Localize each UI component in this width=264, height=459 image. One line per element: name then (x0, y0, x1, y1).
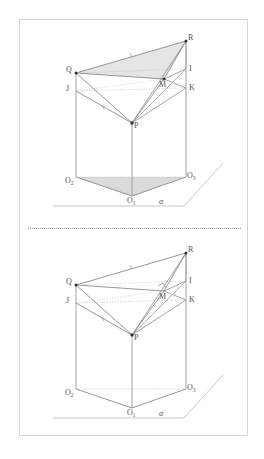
label-P-bottom: P (134, 334, 138, 342)
section-divider (28, 228, 241, 229)
edge-J-P-bottom (76, 303, 132, 335)
edge-P-K-bottom (132, 300, 186, 335)
label-O3-top: O3 (187, 172, 196, 180)
figure-frame: R I K M Q J P O2 O3 O1 α (19, 19, 248, 436)
edge-Q-R-bottom (76, 253, 186, 285)
tick-mark-QR (130, 53, 132, 57)
label-O3-bottom-letter: O (187, 383, 193, 392)
label-O1-bottom-sub: 1 (133, 412, 136, 418)
label-K-top: K (189, 84, 195, 92)
label-alpha-top: α (159, 198, 163, 206)
label-K-bottom: K (189, 296, 195, 304)
label-J-bottom: J (66, 297, 69, 305)
label-O1-bottom-letter: O (127, 408, 133, 417)
label-O2-bottom-letter: O (65, 388, 71, 397)
shaded-base-face (76, 177, 186, 196)
label-J-top: J (66, 85, 69, 93)
edge-Q-M-bottom (76, 285, 164, 291)
label-O3-bottom: O3 (187, 384, 196, 392)
edge-J-P (76, 91, 132, 123)
label-R-bottom: R (188, 246, 193, 254)
plane-alpha-outline-bottom (53, 375, 223, 418)
edge-P-K (132, 88, 186, 123)
label-O1-bottom: O1 (127, 409, 136, 417)
shaded-top-face (76, 41, 186, 79)
label-O2-bottom: O2 (65, 389, 74, 397)
label-M-bottom: M (159, 293, 166, 301)
edge-O2-O1-bottom (76, 389, 132, 408)
label-I-bottom: I (189, 277, 192, 285)
edge-Q-P (76, 73, 132, 123)
page-root: R I K M Q J P O2 O3 O1 α (0, 0, 264, 459)
label-O2-bottom-sub: 2 (71, 392, 74, 398)
label-R-top: R (188, 34, 193, 42)
vertex-Q (75, 72, 78, 75)
label-O3-bottom-sub: 3 (193, 387, 196, 393)
tick-mark-QR-bottom (130, 265, 132, 269)
vertex-Q-bottom (75, 284, 78, 287)
label-O2-top: O2 (65, 177, 74, 185)
label-alpha-bottom: α (159, 410, 163, 418)
label-I-top: I (189, 65, 192, 73)
figure-bottom: R I K M Q J P O2 O3 O1 α (20, 236, 249, 437)
label-Q-top: Q (66, 66, 72, 74)
label-Q-bottom: Q (66, 278, 72, 286)
label-M-top: M (159, 81, 166, 89)
edge-J-K-dotted-bottom (76, 300, 186, 303)
label-O1-top-sub: 1 (133, 200, 136, 206)
label-O3-top-sub: 3 (193, 175, 196, 181)
label-O1-top-letter: O (127, 196, 133, 205)
label-O3-top-letter: O (187, 171, 193, 180)
label-O2-top-letter: O (65, 176, 71, 185)
figure-top-drawing (20, 20, 249, 220)
right-angle-mark (158, 283, 166, 288)
edge-J-K-dotted (76, 88, 186, 91)
label-P-top: P (134, 122, 138, 130)
edge-Q-P-bottom (76, 285, 132, 335)
label-O1-top: O1 (127, 197, 136, 205)
edge-O1-O3-bottom (132, 389, 186, 408)
label-O2-top-sub: 2 (71, 180, 74, 186)
